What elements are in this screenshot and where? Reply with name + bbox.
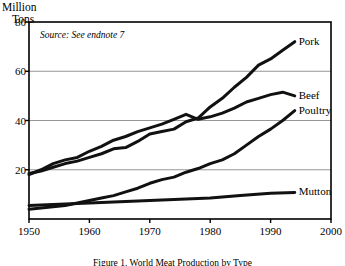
series-label-mutton: Mutton bbox=[299, 185, 331, 197]
series-label-beef: Beef bbox=[299, 89, 320, 101]
x-tick-label: 1960 bbox=[69, 225, 109, 237]
series-label-pork: Pork bbox=[299, 35, 320, 47]
x-tick-label: 1980 bbox=[190, 225, 230, 237]
y-tick-label: 40 bbox=[0, 115, 26, 127]
plot-area bbox=[0, 0, 345, 266]
x-tick-label: 1950 bbox=[9, 225, 49, 237]
x-tick-label: 2000 bbox=[311, 225, 345, 237]
y-tick-label: 60 bbox=[0, 65, 26, 77]
series-label-poultry: Poultry bbox=[299, 104, 331, 116]
x-tick-label: 1990 bbox=[251, 225, 291, 237]
chart-container: Million Tons Source: See endnote 7 20406… bbox=[0, 0, 345, 266]
x-tick-label: 1970 bbox=[130, 225, 170, 237]
figure-caption: Figure 1. World Meat Production by Type bbox=[0, 258, 345, 266]
y-tick-label: 80 bbox=[0, 16, 26, 28]
y-tick-label: 20 bbox=[0, 164, 26, 176]
